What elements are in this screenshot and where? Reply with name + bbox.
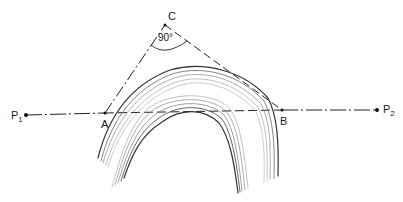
point-b-dot (281, 109, 284, 112)
label-point-p1: P1 (11, 110, 23, 124)
label-point-p2: P2 (383, 104, 395, 118)
point-p1-dot (24, 113, 28, 117)
label-point-b: B (280, 116, 287, 127)
point-p2-dot (375, 108, 379, 112)
label-angle: 90° (158, 33, 173, 43)
fold-geometry-diagram: C 90° A B P1 P2 (0, 0, 403, 202)
fold-inner-layers (112, 96, 248, 193)
diagram-canvas (0, 0, 403, 202)
label-point-c: C (168, 11, 176, 22)
point-c-dot (164, 24, 167, 27)
point-a-dot (104, 112, 107, 115)
label-point-a: A (101, 119, 108, 130)
